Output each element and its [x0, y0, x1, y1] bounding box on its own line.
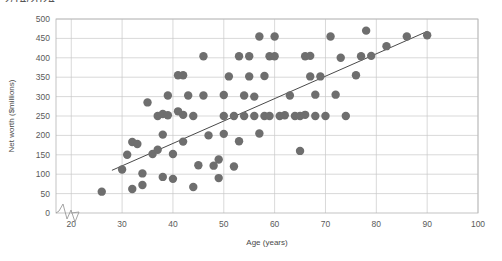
data-point	[306, 72, 314, 80]
data-point	[164, 111, 172, 119]
svg-text:250: 250	[36, 111, 50, 121]
data-point	[138, 169, 146, 177]
svg-text:0: 0	[45, 208, 50, 218]
data-point	[362, 26, 370, 34]
y-tick-labels: 050100150200250300350400450500	[36, 14, 50, 218]
svg-text:200: 200	[36, 130, 50, 140]
data-point	[342, 112, 350, 120]
data-point	[423, 31, 431, 39]
data-point	[306, 52, 314, 60]
data-point	[179, 111, 187, 119]
data-point	[98, 187, 106, 195]
data-point	[235, 137, 243, 145]
data-point	[245, 72, 253, 80]
data-point	[164, 91, 172, 99]
data-point	[118, 165, 126, 173]
data-point	[204, 131, 212, 139]
y-axis-label: Net worth ($millions)	[7, 79, 16, 152]
data-point	[138, 181, 146, 189]
data-point	[133, 140, 141, 148]
data-point	[382, 42, 390, 50]
plot-svg: 050100150200250300350400450500 203040506…	[0, 0, 502, 261]
svg-text:90: 90	[422, 219, 432, 229]
svg-text:400: 400	[36, 53, 50, 63]
data-point	[286, 91, 294, 99]
data-point	[159, 130, 167, 138]
data-point	[255, 32, 263, 40]
data-point	[270, 32, 278, 40]
data-point	[184, 91, 192, 99]
svg-text:150: 150	[36, 150, 50, 160]
data-point	[220, 130, 228, 138]
data-point	[143, 98, 151, 106]
data-point	[214, 174, 222, 182]
data-point	[159, 173, 167, 181]
data-point	[189, 112, 197, 120]
data-point	[250, 92, 258, 100]
data-point	[240, 112, 248, 120]
svg-text:70: 70	[321, 219, 331, 229]
data-point	[245, 52, 253, 60]
data-point	[321, 112, 329, 120]
data-point	[367, 52, 375, 60]
data-point	[281, 111, 289, 119]
data-point	[403, 32, 411, 40]
data-point	[230, 112, 238, 120]
data-point	[225, 72, 233, 80]
data-point	[357, 52, 365, 60]
svg-text:30: 30	[117, 219, 127, 229]
data-point	[235, 52, 243, 60]
svg-text:300: 300	[36, 92, 50, 102]
data-point	[214, 155, 222, 163]
data-point	[337, 54, 345, 62]
data-point	[169, 175, 177, 183]
svg-text:80: 80	[372, 219, 382, 229]
data-point	[123, 151, 131, 159]
svg-text:100: 100	[471, 219, 485, 229]
svg-text:450: 450	[36, 33, 50, 43]
scatter-chart: 2/14/2024, 05010015020025030035040045050…	[0, 0, 502, 261]
svg-text:50: 50	[219, 219, 229, 229]
data-point	[316, 72, 324, 80]
data-point	[179, 71, 187, 79]
data-point	[199, 52, 207, 60]
data-point	[265, 112, 273, 120]
data-point	[250, 112, 258, 120]
x-tick-labels: 2030405060708090100	[67, 219, 486, 229]
svg-text:40: 40	[168, 219, 178, 229]
svg-text:100: 100	[36, 169, 50, 179]
data-point	[331, 90, 339, 98]
data-point	[301, 111, 309, 119]
data-point	[311, 90, 319, 98]
data-point	[352, 71, 360, 79]
data-point	[189, 183, 197, 191]
data-point	[230, 162, 238, 170]
data-point	[240, 91, 248, 99]
data-point	[255, 129, 263, 137]
data-point	[169, 150, 177, 158]
data-point	[260, 72, 268, 80]
x-axis-label: Age (years)	[246, 238, 288, 247]
svg-text:50: 50	[41, 189, 51, 199]
svg-text:60: 60	[270, 219, 280, 229]
data-point	[311, 112, 319, 120]
svg-text:500: 500	[36, 14, 50, 24]
data-point	[326, 32, 334, 40]
data-point	[199, 91, 207, 99]
svg-text:350: 350	[36, 72, 50, 82]
data-point	[220, 112, 228, 120]
data-point	[270, 52, 278, 60]
data-point	[296, 147, 304, 155]
data-point	[194, 161, 202, 169]
data-point	[153, 146, 161, 154]
data-point	[179, 137, 187, 145]
data-point	[220, 91, 228, 99]
data-point	[128, 185, 136, 193]
